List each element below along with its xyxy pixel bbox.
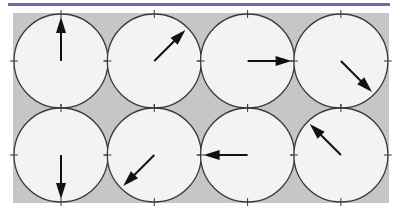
dial-down-left bbox=[103, 104, 205, 206]
dial-grid bbox=[0, 0, 401, 211]
dial-down-right bbox=[290, 10, 392, 112]
dial-left bbox=[197, 104, 299, 206]
dial-right bbox=[197, 10, 299, 112]
dial-down bbox=[10, 104, 112, 206]
dial-up-left bbox=[290, 104, 392, 206]
dial-up bbox=[10, 10, 112, 112]
dial-up-right bbox=[103, 10, 205, 112]
